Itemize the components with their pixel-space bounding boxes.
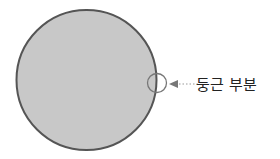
arrow-head-icon: [169, 80, 178, 88]
main-circle: [17, 10, 157, 150]
round-part-label: 둥근 부분: [196, 73, 257, 94]
